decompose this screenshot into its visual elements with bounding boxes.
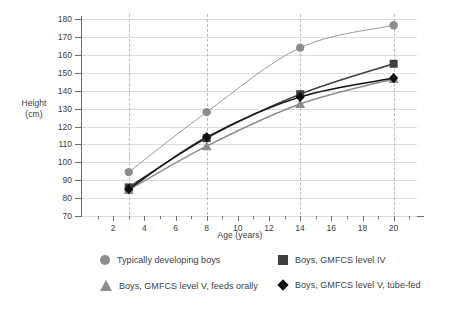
y-axis-tick-label: 170 [50, 33, 72, 42]
x-axis-tick-label: 14 [290, 224, 310, 233]
x-axis-tick-label: 6 [166, 224, 186, 233]
series-line [129, 25, 394, 172]
y-axis-tick [75, 109, 82, 110]
y-axis-tick-label: 160 [50, 51, 72, 60]
y-axis-tick [75, 216, 82, 217]
legend-label: Boys, GMFCS level IV [295, 255, 386, 265]
y-axis-tick-label: 130 [50, 105, 72, 114]
y-axis-tick-label: 90 [50, 176, 72, 185]
chart-legend: Typically developing boys Boys, GMFCS le… [60, 252, 450, 312]
triangle-marker-icon [100, 280, 112, 291]
y-axis-tick-label: 70 [50, 212, 72, 221]
legend-item-gmfcs-level-v-feeds-orally: Boys, GMFCS level V, feeds orally [100, 280, 258, 291]
x-axis-tick-label: 16 [321, 224, 341, 233]
legend-item-typically-developing-boys: Typically developing boys [100, 255, 220, 265]
diamond-marker-icon [277, 279, 288, 290]
legend-item-gmfcs-level-v-tube-fed: Boys, GMFCS level V, tube-fed [278, 280, 421, 290]
y-axis-tick-label: 120 [50, 123, 72, 132]
legend-item-gmfcs-level-iv: Boys, GMFCS level IV [278, 255, 386, 265]
legend-label: Boys, GMFCS level V, tube-fed [295, 280, 421, 290]
y-axis-tick [75, 55, 82, 56]
series-line [129, 78, 394, 189]
circle-marker [296, 43, 304, 51]
y-axis-tick [75, 144, 82, 145]
y-axis-tick-label: 180 [50, 15, 72, 24]
y-axis-tick-label: 140 [50, 87, 72, 96]
y-axis-tick [75, 127, 82, 128]
x-axis-tick-label: 20 [384, 224, 404, 233]
y-axis-tick [75, 91, 82, 92]
plot-area: 708090100110120130140150160170180 246810… [82, 19, 417, 216]
y-axis-tick [75, 198, 82, 199]
y-axis-tick-label: 100 [50, 158, 72, 167]
y-axis-tick [75, 73, 82, 74]
triangle-marker [202, 141, 212, 150]
y-axis-tick [75, 19, 82, 20]
y-axis-tick-label: 80 [50, 194, 72, 203]
x-axis-tick-label: 12 [259, 224, 279, 233]
y-axis-tick-label: 150 [50, 69, 72, 78]
y-axis-tick [75, 37, 82, 38]
series-lines-and-markers [82, 19, 417, 219]
x-axis-tick-label: 2 [103, 224, 123, 233]
square-marker-icon [278, 255, 288, 265]
y-axis-tick-label: 110 [50, 140, 72, 149]
y-axis-tick [75, 162, 82, 163]
x-axis-tick-label: 10 [228, 224, 248, 233]
x-axis-tick-label: 4 [134, 224, 154, 233]
legend-label: Boys, GMFCS level V, feeds orally [119, 281, 258, 291]
x-axis-tick-label: 8 [197, 224, 217, 233]
series-line [129, 79, 394, 190]
series-line [129, 64, 394, 188]
circle-marker-icon [100, 255, 110, 265]
circle-marker [125, 168, 133, 176]
growth-chart: Height (cm) Age (years) 7080901001101201… [0, 0, 453, 315]
y-axis-tick [75, 180, 82, 181]
x-axis-tick-label: 18 [353, 224, 373, 233]
legend-label: Typically developing boys [117, 255, 220, 265]
square-marker [390, 60, 398, 68]
circle-marker [389, 21, 397, 29]
circle-marker [202, 108, 210, 116]
